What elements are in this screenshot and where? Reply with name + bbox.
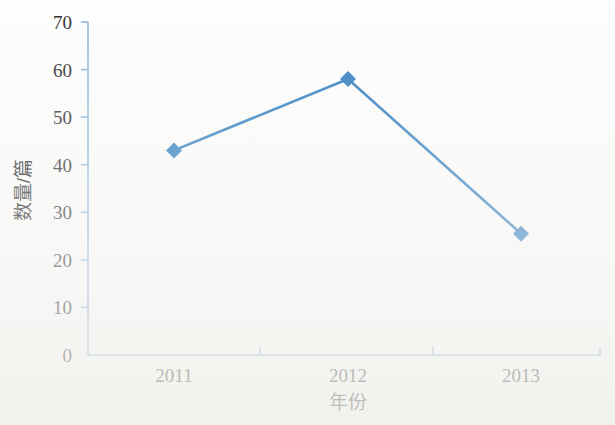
x-axis-tick-labels: 2011 2012 2013	[155, 365, 540, 386]
data-point-2011[interactable]	[166, 142, 182, 158]
y-tick-label-50: 50	[53, 107, 72, 128]
x-axis-title: 年份	[329, 392, 367, 413]
y-axis-tick-labels: 70 60 50 40 30 20 10 0	[53, 12, 72, 366]
y-tick-label-70: 70	[53, 12, 72, 33]
line-chart: 70 60 50 40 30 20 10 0 2011 2012 2013 年份…	[0, 0, 615, 425]
y-tick-label-10: 10	[53, 297, 72, 318]
y-tick-label-20: 20	[53, 250, 72, 271]
y-axis-title: 数量/篇	[13, 159, 34, 221]
series-line-shuliang	[174, 79, 521, 234]
x-tick-label-2012: 2012	[329, 365, 367, 386]
x-axis-ticks	[260, 347, 600, 355]
y-tick-label-60: 60	[53, 60, 72, 81]
chart-container: 70 60 50 40 30 20 10 0 2011 2012 2013 年份…	[0, 0, 615, 425]
y-tick-label-30: 30	[53, 202, 72, 223]
y-axis-ticks	[81, 22, 88, 307]
series-markers	[166, 71, 529, 242]
y-tick-label-40: 40	[53, 155, 72, 176]
x-tick-label-2013: 2013	[502, 365, 540, 386]
x-tick-label-2011: 2011	[155, 365, 192, 386]
y-tick-label-0: 0	[63, 345, 73, 366]
